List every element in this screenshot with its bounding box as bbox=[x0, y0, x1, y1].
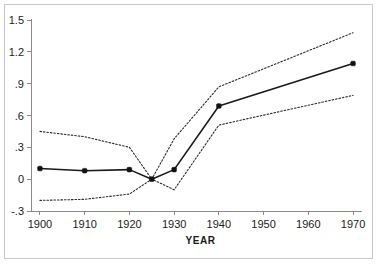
x-tick-label: 1970 bbox=[341, 218, 365, 230]
data-series-group bbox=[40, 33, 353, 201]
x-tick-label: 1910 bbox=[72, 218, 96, 230]
y-tick-label: 1.2 bbox=[9, 46, 24, 58]
x-tick-label: 1900 bbox=[28, 218, 52, 230]
y-tick-label: .9 bbox=[15, 78, 24, 90]
y-tick-label: -.3 bbox=[11, 205, 24, 217]
data-point-marker bbox=[127, 167, 132, 172]
data-marker-group bbox=[38, 61, 356, 181]
y-tick-label: 0 bbox=[18, 173, 24, 185]
data-point-marker bbox=[38, 166, 43, 171]
y-axis-ticks: -.30.3.6.91.21.5 bbox=[9, 14, 31, 217]
data-point-marker bbox=[149, 177, 154, 182]
x-tick-label: 1940 bbox=[207, 218, 231, 230]
y-tick-label: 1.5 bbox=[9, 14, 24, 26]
chart-page: -.30.3.6.91.21.5 19001910192019301940195… bbox=[0, 0, 379, 265]
x-tick-label: 1950 bbox=[251, 218, 275, 230]
x-axis-ticks: 19001910192019301940195019601970 bbox=[28, 211, 366, 230]
y-tick-label: .3 bbox=[15, 141, 24, 153]
series-line bbox=[40, 95, 353, 200]
y-tick-label: .6 bbox=[15, 110, 24, 122]
data-point-marker bbox=[172, 167, 177, 172]
data-point-marker bbox=[82, 168, 87, 173]
x-tick-label: 1920 bbox=[117, 218, 141, 230]
series-line bbox=[40, 64, 353, 180]
x-axis-title: YEAR bbox=[185, 235, 215, 246]
line-chart: -.30.3.6.91.21.5 19001910192019301940195… bbox=[0, 0, 379, 265]
x-tick-label: 1960 bbox=[296, 218, 320, 230]
x-tick-label: 1930 bbox=[162, 218, 186, 230]
data-point-marker bbox=[217, 104, 222, 109]
data-point-marker bbox=[351, 61, 356, 66]
